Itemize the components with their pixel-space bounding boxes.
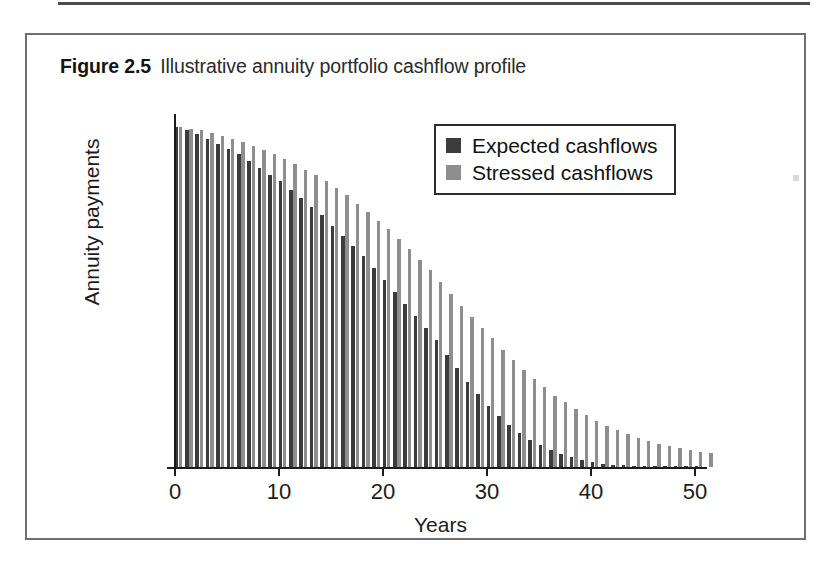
page-canvas: Figure 2.5Illustrative annuity portfolio… (0, 0, 836, 572)
bar-expected (424, 328, 428, 467)
bar-stressed (668, 446, 672, 467)
bar-expected (237, 154, 241, 467)
bar-stressed (429, 270, 433, 467)
bar-stressed (439, 282, 443, 467)
y-axis-line (174, 114, 176, 468)
bar-stressed (470, 317, 474, 467)
bar-stressed (647, 441, 651, 467)
bar-expected (518, 433, 522, 467)
legend-swatch-stressed-icon (446, 165, 461, 180)
bar-stressed (252, 146, 256, 467)
x-axis-tick-label: 40 (579, 479, 603, 505)
x-axis-tick (278, 468, 280, 476)
x-axis-tick-label: 50 (683, 479, 707, 505)
bar-stressed (179, 127, 183, 467)
bar-stressed (387, 229, 391, 467)
bar-expected (559, 454, 563, 467)
bar-expected (455, 368, 459, 467)
bar-stressed (564, 402, 568, 467)
bar-expected (206, 139, 210, 467)
bar-stressed (585, 415, 589, 467)
bar-expected (185, 130, 189, 467)
legend-item-stressed: Stressed cashflows (446, 159, 658, 186)
bar-expected (320, 215, 324, 467)
bar-stressed (200, 130, 204, 467)
bar-stressed (491, 338, 495, 467)
bar-expected (362, 256, 366, 467)
bar-stressed (574, 409, 578, 467)
bar-stressed (418, 260, 422, 467)
bar-expected (331, 226, 335, 467)
legend-item-expected: Expected cashflows (446, 132, 658, 159)
bar-stressed (241, 142, 245, 467)
bar-stressed (595, 421, 599, 467)
bar-stressed (616, 430, 620, 467)
bar-expected (414, 316, 418, 467)
x-axis-tick (382, 468, 384, 476)
bar-expected (383, 280, 387, 467)
x-axis-tick (486, 468, 488, 476)
x-axis-tick-label: 20 (371, 479, 395, 505)
bar-expected (507, 425, 511, 468)
x-axis-tick (590, 468, 592, 476)
bar-expected (435, 340, 439, 468)
bar-stressed (262, 150, 266, 467)
bar-stressed (481, 328, 485, 467)
x-axis-tick-label: 0 (169, 479, 181, 505)
bar-stressed (522, 370, 526, 467)
bar-stressed (231, 139, 235, 467)
bar-stressed (449, 294, 453, 467)
bar-stressed (553, 396, 557, 467)
bar-stressed (501, 350, 505, 467)
bar-expected (195, 134, 199, 467)
bar-expected (372, 268, 376, 467)
legend-label-stressed: Stressed cashflows (472, 162, 653, 183)
bar-stressed (273, 154, 277, 467)
bar-stressed (678, 448, 682, 467)
bar-stressed (512, 360, 516, 467)
bar-expected (466, 382, 470, 467)
bar-expected (341, 236, 345, 467)
bar-stressed (626, 434, 630, 467)
bar-stressed (325, 181, 329, 467)
bar-stressed (699, 452, 703, 467)
bar-stressed (314, 175, 318, 467)
bar-expected (528, 440, 532, 467)
chart-legend: Expected cashflows Stressed cashflows (434, 124, 676, 195)
bar-stressed (377, 221, 381, 468)
bar-stressed (189, 129, 193, 467)
legend-label-expected: Expected cashflows (472, 135, 658, 156)
bar-expected (580, 460, 584, 467)
bar-expected (227, 149, 231, 467)
bar-stressed (345, 195, 349, 467)
bar-expected (351, 246, 355, 467)
bar-stressed (304, 170, 308, 468)
scan-artifact (793, 175, 799, 181)
bar-expected (247, 161, 251, 467)
bar-stressed (397, 239, 401, 467)
bar-stressed (460, 306, 464, 468)
bar-stressed (408, 249, 412, 467)
bar-stressed (293, 164, 297, 467)
bar-expected (549, 450, 553, 467)
bar-expected (570, 457, 574, 467)
bar-stressed (221, 136, 225, 468)
bar-expected (487, 406, 491, 467)
bar-stressed (605, 426, 609, 467)
bar-expected (445, 355, 449, 467)
bar-stressed (657, 444, 661, 467)
bar-stressed (543, 387, 547, 467)
bar-stressed (637, 438, 641, 467)
bar-expected (539, 445, 543, 467)
bar-group (27, 35, 808, 542)
x-axis-tick (174, 468, 176, 476)
x-axis-tick (694, 468, 696, 476)
bar-stressed (356, 204, 360, 468)
bar-expected (403, 304, 407, 467)
bar-stressed (709, 453, 713, 467)
bar-expected (310, 207, 314, 467)
bar-stressed (533, 379, 537, 467)
x-axis-title: Years (174, 513, 707, 537)
bar-expected (279, 181, 283, 467)
x-axis-line (167, 467, 707, 469)
